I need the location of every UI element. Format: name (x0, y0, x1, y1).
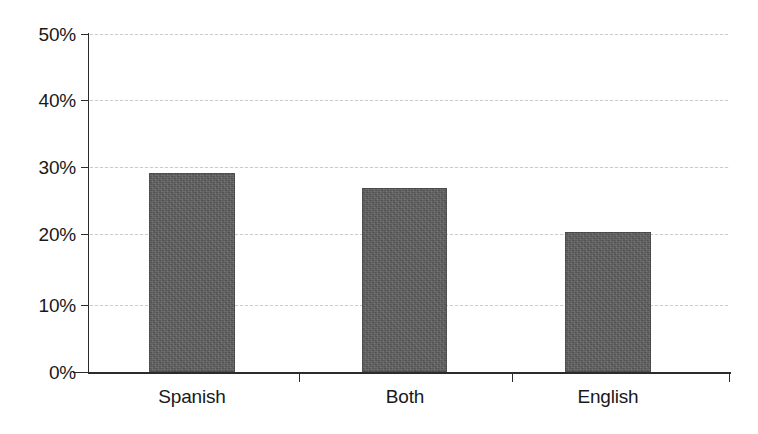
y-tick-mark-20 (81, 234, 89, 235)
y-tick-mark-50 (81, 34, 89, 35)
bar-chart: 50% 40% 30% 20% 10% 0% Spanish Both Engl… (0, 0, 758, 434)
y-tick-label-20: 20% (4, 225, 76, 244)
y-tick-mark-10 (81, 305, 89, 306)
bar-english (565, 232, 651, 372)
y-tick-label-30: 30% (4, 158, 76, 177)
x-label-english: English (538, 386, 678, 408)
x-axis-line (88, 372, 731, 374)
y-tick-label-0: 0% (4, 363, 76, 382)
bar-both (362, 188, 447, 372)
x-tick-mark-1 (299, 373, 300, 382)
x-tick-mark-2 (512, 373, 513, 382)
y-tick-label-40: 40% (4, 91, 76, 110)
bar-spanish (149, 173, 235, 372)
y-tick-mark-30 (81, 167, 89, 168)
y-tick-label-50: 50% (4, 25, 76, 44)
gridline-40 (88, 100, 730, 101)
y-axis-labels: 50% 40% 30% 20% 10% 0% (0, 0, 76, 434)
y-tick-label-10: 10% (4, 296, 76, 315)
gridline-30 (88, 167, 730, 168)
y-tick-mark-40 (81, 100, 89, 101)
x-label-both: Both (335, 386, 475, 408)
gridline-50 (88, 34, 730, 35)
x-label-spanish: Spanish (122, 386, 262, 408)
y-axis-line (88, 33, 89, 373)
x-tick-mark-3 (729, 373, 730, 382)
plot-area (88, 34, 730, 372)
